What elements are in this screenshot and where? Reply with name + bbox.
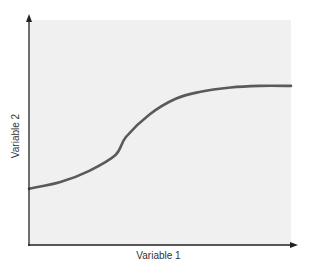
chart: Variable 1 Variable 2: [0, 0, 313, 274]
y-axis-label: Variable 2: [10, 114, 22, 158]
plot-panel: [29, 20, 291, 245]
chart-plot: [0, 0, 313, 274]
x-axis-label: Variable 1: [0, 250, 313, 262]
